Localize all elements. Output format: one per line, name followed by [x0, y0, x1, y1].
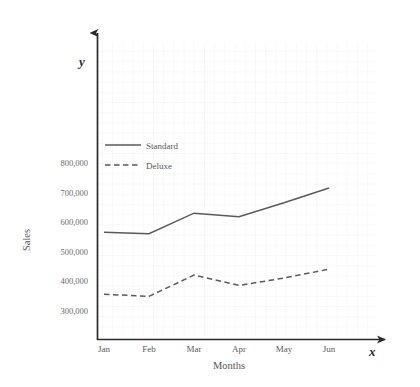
legend-label-deluxe: Deluxe	[146, 161, 172, 171]
x-tick-label: Apr	[232, 344, 246, 354]
x-tick-label: Jan	[98, 344, 110, 354]
y-tick-label: 600,000	[60, 217, 88, 227]
x-tick-labels: Jan Feb Mar Apr May Jun	[98, 344, 336, 354]
y-axis-title: Sales	[21, 229, 32, 251]
y-axis-variable-label: y	[77, 54, 85, 69]
y-tick-labels: 800,000 700,000 600,000 500,000 400,000 …	[60, 158, 88, 316]
chart-gridlines	[98, 42, 375, 336]
y-tick-label: 300,000	[60, 306, 88, 316]
sales-line-chart: y x 800,000 700,000 600,000 500,000 400,…	[0, 0, 420, 387]
x-axis-title: Months	[213, 360, 245, 371]
x-tick-label: May	[276, 344, 293, 354]
legend-label-standard: Standard	[146, 141, 178, 151]
chart-canvas: y x 800,000 700,000 600,000 500,000 400,…	[0, 0, 420, 387]
x-axis-variable-label: x	[368, 344, 376, 359]
y-tick-label: 500,000	[60, 247, 88, 257]
x-tick-label: Jun	[323, 344, 336, 354]
x-tick-label: Feb	[142, 344, 156, 354]
x-tick-label: Mar	[187, 344, 202, 354]
y-tick-label: 800,000	[60, 158, 88, 168]
y-tick-label: 700,000	[60, 188, 88, 198]
y-tick-label: 400,000	[60, 276, 88, 286]
